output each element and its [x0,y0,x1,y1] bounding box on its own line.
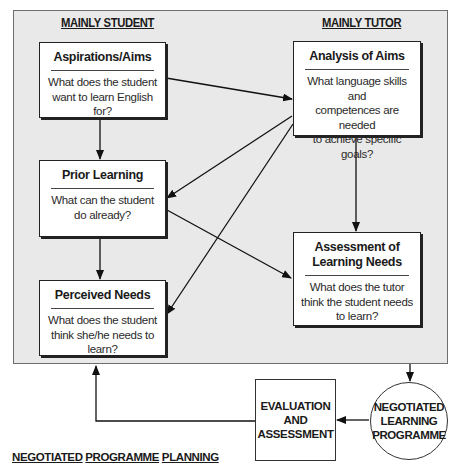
arrow-analysis-to-perceived [167,124,293,314]
box-analysis-of-aims: Analysis of Aims What language skills an… [293,41,421,136]
divider [305,275,409,276]
question-line: goals? [298,147,416,162]
caption-word: PROGRAMME [85,451,159,463]
question-line: What language skills and [298,74,416,103]
circle-negotiated-learning-programme: NEGOTIATED LEARNING PROGRAMME [370,382,448,460]
box-prior-learning: Prior Learning What can the student do a… [39,160,166,237]
label-line: ASSESSMENT [257,427,333,441]
divider [51,70,154,71]
box-aspirations-aims: Aspirations/Aims What does the student w… [39,42,166,118]
question-line: want to learn English for? [44,90,161,119]
question-line: competences are needed [298,103,416,132]
box-perceived-needs: Perceived Needs What does the student th… [39,280,166,356]
arrow-evaluation-to-panel [96,366,255,421]
question-line: What can the student [44,193,161,208]
title-line: Learning Needs [294,255,420,270]
box-evaluation-and-assessment: EVALUATION AND ASSESSMENT [255,379,336,461]
question-line: learn? [44,342,161,357]
figure-caption: NEGOTIATED PROGRAMME PLANNING [12,451,219,463]
label-line: EVALUATION [257,399,333,413]
box-assessment-of-learning-needs: Assessment of Learning Needs What does t… [293,232,421,326]
box-title: Perceived Needs [40,288,165,303]
question-line: to achieve specific [298,132,416,147]
label-line: NEGOTIATED [372,400,446,414]
box-question: What does the student think she/he needs… [40,313,165,357]
question-line: What does the student [44,313,161,328]
question-line: do already? [44,208,161,223]
box-question: What language skills and competences are… [294,74,420,161]
label-line: AND [257,413,333,427]
title-line: Assessment of [294,240,420,255]
box-question: What does the student want to learn Engl… [40,75,165,119]
arrow-aspirations-to-analysis [166,78,292,99]
box-title: Assessment of Learning Needs [294,240,420,270]
box-question: What does the tutor think the student ne… [294,280,420,324]
label-line: LEARNING [372,414,446,428]
question-line: What does the student [44,75,161,90]
divider [51,308,154,309]
box-title: Analysis of Aims [294,49,420,64]
label-line: PROGRAMME [372,428,446,442]
box-question: What can the student do already? [40,193,165,222]
question-line: What does the tutor [298,280,416,295]
arrow-analysis-to-prior [167,116,292,198]
question-line: to learn? [298,309,416,324]
divider [51,188,154,189]
question-line: think she/he needs to [44,328,161,343]
caption-word: PLANNING [162,451,219,463]
box-title: Aspirations/Aims [40,50,165,65]
question-line: think the student needs [298,295,416,310]
caption-word: NEGOTIATED [12,451,83,463]
divider [305,69,409,70]
box-title: Prior Learning [40,168,165,183]
